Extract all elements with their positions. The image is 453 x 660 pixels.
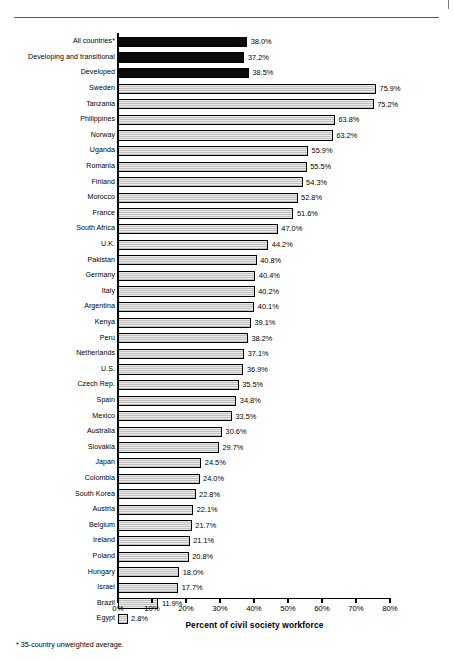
bar xyxy=(118,193,298,203)
bar-row: U.S.36.9% xyxy=(0,362,453,378)
bar-category-label: Argentina xyxy=(0,299,115,315)
bar-row: All countries*38.0% xyxy=(0,34,453,50)
bar-row: Sweden75.9% xyxy=(0,81,453,97)
bar xyxy=(118,146,308,156)
bar-value-label: 63.2% xyxy=(336,128,357,144)
bar-row: Belgium21.7% xyxy=(0,518,453,534)
bar xyxy=(118,552,189,562)
bar xyxy=(118,583,178,593)
bar xyxy=(118,567,179,577)
x-axis-tick xyxy=(253,598,254,603)
bar-value-label: 39.1% xyxy=(254,315,275,331)
bar-value-label: 24.0% xyxy=(203,471,224,487)
bar-chart: All countries*38.0%Developing and transi… xyxy=(0,0,453,660)
bar-category-label: Japan xyxy=(0,455,115,471)
bar xyxy=(118,130,333,140)
bar xyxy=(118,52,244,62)
bar-row: Japan24.5% xyxy=(0,455,453,471)
bar-category-label: South Africa xyxy=(0,221,115,237)
bar xyxy=(118,115,335,125)
bar xyxy=(118,240,268,250)
bar xyxy=(118,364,243,374)
x-axis-tick xyxy=(185,598,186,603)
x-axis-tick xyxy=(151,598,152,603)
bar-category-label: Developing and transitional xyxy=(0,50,115,66)
bar-value-label: 18.0% xyxy=(183,565,204,581)
bar-category-label: Belgium xyxy=(0,518,115,534)
bar-category-label: U.K. xyxy=(0,237,115,253)
bar-category-label: Philippines xyxy=(0,112,115,128)
bar xyxy=(118,411,232,421)
bar xyxy=(118,318,251,328)
bar-row: Italy40.2% xyxy=(0,284,453,300)
bar-category-label: Poland xyxy=(0,549,115,565)
bar-value-label: 36.9% xyxy=(247,362,268,378)
bar xyxy=(118,520,192,530)
bar-category-label: Italy xyxy=(0,284,115,300)
footnote: * 35-country unweighted average. xyxy=(16,641,124,649)
bar xyxy=(118,255,257,265)
bar-value-label: 24.5% xyxy=(205,455,226,471)
bar-value-label: 37.1% xyxy=(248,346,269,362)
bar-category-label: Norway xyxy=(0,128,115,144)
bar xyxy=(118,68,249,78)
bar xyxy=(118,162,307,172)
bar xyxy=(118,380,239,390)
bar-category-label: U.S. xyxy=(0,362,115,378)
bar-row: Argentina40.1% xyxy=(0,299,453,315)
bar xyxy=(118,208,293,218)
bar-category-label: Israel xyxy=(0,580,115,596)
bar-value-label: 38.5% xyxy=(252,65,273,81)
x-axis-tick-label: 80% xyxy=(370,603,410,615)
bar-category-label: Netherlands xyxy=(0,346,115,362)
bar-value-label: 21.7% xyxy=(195,518,216,534)
bar-category-label: Tanzania xyxy=(0,97,115,113)
bar xyxy=(118,474,200,484)
bar xyxy=(118,505,193,515)
bar xyxy=(118,271,255,281)
bar xyxy=(118,442,219,452)
bar-value-label: 75.2% xyxy=(377,97,398,113)
bar-value-label: 22.1% xyxy=(197,502,218,518)
bar-category-label: Hungary xyxy=(0,565,115,581)
bar-category-label: Pakistan xyxy=(0,253,115,269)
bar xyxy=(118,489,196,499)
bar-category-label: South Korea xyxy=(0,487,115,503)
bar-row: Israel17.7% xyxy=(0,580,453,596)
bar-value-label: 54.3% xyxy=(306,175,327,191)
bar-row: Philippines63.8% xyxy=(0,112,453,128)
bar-category-label: Romania xyxy=(0,159,115,175)
bar-row: Pakistan40.8% xyxy=(0,253,453,269)
bar-value-label: 29.7% xyxy=(222,440,243,456)
bar-category-label: Austria xyxy=(0,502,115,518)
bar xyxy=(118,99,374,109)
bar xyxy=(118,37,247,47)
bar-row: Mexico33.5% xyxy=(0,409,453,425)
bar-value-label: 37.2% xyxy=(248,50,269,66)
bar-value-label: 52.8% xyxy=(301,190,322,206)
bar xyxy=(118,396,236,406)
bar-value-label: 20.8% xyxy=(192,549,213,565)
bar-row: Tanzania75.2% xyxy=(0,97,453,113)
bar-category-label: Uganda xyxy=(0,143,115,159)
bar-category-label: Mexico xyxy=(0,409,115,425)
x-axis-title: Percent of civil society workforce xyxy=(118,620,391,630)
x-axis-tick xyxy=(287,598,288,603)
bar-row: Romania55.5% xyxy=(0,159,453,175)
bar xyxy=(118,302,254,312)
bar-row: Austria22.1% xyxy=(0,502,453,518)
bar-row: Ireland21.1% xyxy=(0,533,453,549)
bar-row: Czech Rep.35.5% xyxy=(0,377,453,393)
bar-row: Germany40.4% xyxy=(0,268,453,284)
x-axis-tick xyxy=(219,598,220,603)
bar-value-label: 40.2% xyxy=(258,284,279,300)
bar-row: Poland20.8% xyxy=(0,549,453,565)
bar-row: Peru38.2% xyxy=(0,331,453,347)
bar-row: Norway63.2% xyxy=(0,128,453,144)
bar-row: Hungary18.0% xyxy=(0,565,453,581)
bar-value-label: 47.0% xyxy=(281,221,302,237)
x-axis-tick xyxy=(355,598,356,603)
bar xyxy=(118,177,303,187)
bar-value-label: 40.4% xyxy=(259,268,280,284)
bar-row: Developing and transitional37.2% xyxy=(0,50,453,66)
